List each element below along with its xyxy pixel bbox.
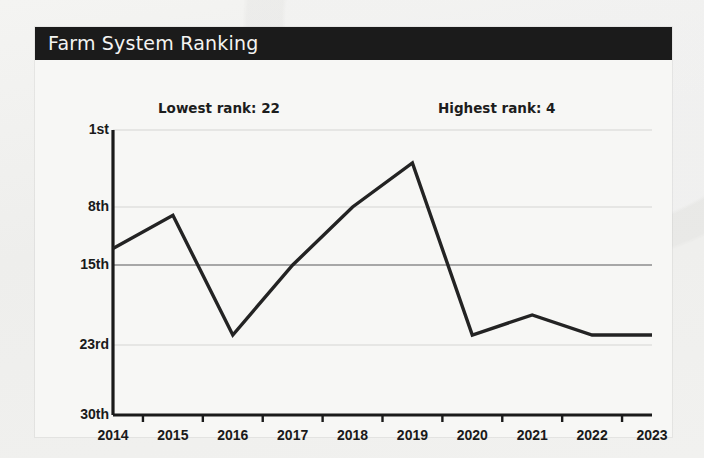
x-tick-label-2019: 2019 (382, 427, 442, 443)
x-tick-label-2017: 2017 (263, 427, 323, 443)
farm-system-ranking-card: Farm System Ranking Lowest rank: 22 High… (35, 27, 672, 437)
card-header-bar: Farm System Ranking (35, 27, 672, 60)
x-tick-label-2018: 2018 (323, 427, 383, 443)
x-tick-label-2016: 2016 (203, 427, 263, 443)
screenshot-root: Farm System Ranking Lowest rank: 22 High… (0, 0, 704, 458)
chart-plot-area: Lowest rank: 22 Highest rank: 4 1st8th15… (35, 60, 672, 437)
x-tick-label-2021: 2021 (502, 427, 562, 443)
x-tick-label-2015: 2015 (143, 427, 203, 443)
x-tick-label-2022: 2022 (562, 427, 622, 443)
x-tick-label-2023: 2023 (622, 427, 682, 443)
x-axis-labels: 2014201520162017201820192020202120222023 (35, 60, 672, 437)
x-tick-label-2020: 2020 (442, 427, 502, 443)
page-title: Farm System Ranking (48, 32, 258, 54)
x-tick-label-2014: 2014 (83, 427, 143, 443)
